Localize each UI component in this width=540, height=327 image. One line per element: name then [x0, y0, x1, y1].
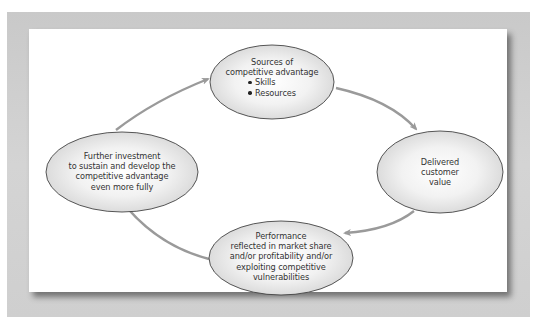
node-investment-line-4: even more fully [57, 182, 187, 192]
arrow-delivered-to-performance [345, 211, 414, 233]
node-investment: Further investment to sustain and develo… [57, 151, 187, 192]
arrow-sources-to-delivered [336, 88, 416, 129]
bullet-skills: Skills [248, 77, 296, 87]
node-performance-line-1: Performance [216, 231, 346, 241]
node-performance-line-2: reflected in market share [216, 241, 346, 251]
node-sources-title-1: Sources of [212, 57, 332, 67]
node-performance-line-4: exploiting competitive [216, 262, 346, 272]
node-performance: Performance reflected in market share an… [216, 231, 346, 282]
arrow-investment-to-sources [116, 79, 208, 130]
node-sources-title-2: competitive advantage [212, 67, 332, 77]
node-investment-line-2: to sustain and develop the [57, 161, 187, 171]
node-performance-line-3: and/or profitability and/or [216, 251, 346, 261]
node-delivered-line-2: customer [400, 167, 480, 177]
node-investment-line-3: competitive advantage [57, 171, 187, 181]
node-sources-bullets: Skills Resources [248, 77, 296, 97]
node-delivered: Delivered customer value [400, 157, 480, 188]
node-sources: Sources of competitive advantage Skills … [212, 57, 332, 98]
node-performance-line-5: vulnerabilities [216, 272, 346, 282]
node-delivered-line-3: value [400, 177, 480, 187]
node-delivered-line-1: Delivered [400, 157, 480, 167]
node-investment-line-1: Further investment [57, 151, 187, 161]
bullet-resources: Resources [248, 88, 296, 98]
